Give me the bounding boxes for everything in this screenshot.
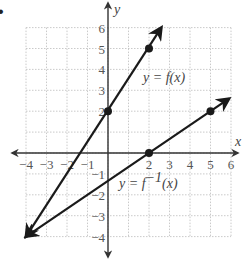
x-tick-label: 6 [228,157,235,172]
grid [26,28,231,237]
x-tick-label: −4 [19,157,33,172]
f-inverse-label: y = f−1(x) [117,170,178,192]
x-tick-label: 3 [166,157,173,172]
tick-labels: −4−3−2−12345665432−1−2−3−4 [19,21,235,245]
f-label: y = f(x) [141,70,185,86]
y-tick-label: −4 [91,230,105,245]
y-tick-label: 5 [99,42,106,57]
y-axis-label: y [112,2,121,17]
x-axis-label: x [234,134,242,149]
y-tick-label: −3 [91,209,105,224]
x-tick-label: 4 [187,157,194,172]
y-tick-label: 3 [99,83,106,98]
x-tick-label: 5 [207,157,214,172]
data-point [104,107,112,115]
y-tick-label: 6 [99,21,106,36]
x-tick-label: −3 [40,157,54,172]
series-line [26,99,229,237]
data-point [145,149,153,157]
y-tick-label: 4 [99,62,106,77]
y-tick-label: −1 [91,167,105,182]
series-labels: y = f(x)y = f−1(x) [117,70,185,192]
data-point [207,107,215,115]
data-point [145,45,153,53]
function-inverse-graph: yx −4−3−2−12345665432−1−2−3−4 y = f(x)y … [0,0,243,259]
